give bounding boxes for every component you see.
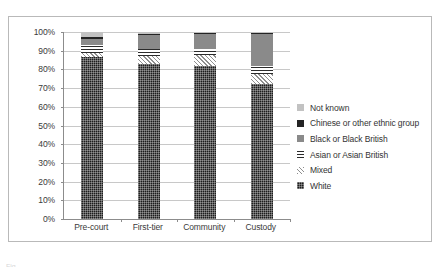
y-axis-tick-label: 70% xyxy=(21,83,55,93)
chart-legend: Not knownChinese or other ethnic groupBl… xyxy=(297,100,442,194)
legend-label: White xyxy=(310,181,331,191)
y-axis-tick-label: 30% xyxy=(21,158,55,168)
legend-swatch-icon xyxy=(297,120,304,127)
legend-item: Not known xyxy=(297,100,442,116)
bar-segment xyxy=(138,49,160,56)
legend-swatch-icon xyxy=(297,167,304,174)
bar-segment xyxy=(81,45,103,52)
y-axis-tick-label: 60% xyxy=(21,102,55,112)
bar-segment xyxy=(138,56,160,63)
y-axis-tick-mark xyxy=(61,32,64,33)
y-axis-tick-label: 100% xyxy=(21,27,55,37)
x-axis-labels: Pre-courtFirst-tierCommunityCustody xyxy=(63,222,289,238)
legend-item: Black or Black British xyxy=(297,131,442,147)
y-axis-tick-label: 90% xyxy=(21,46,55,56)
caption-sliver: Fig xyxy=(6,262,16,267)
bar-custody xyxy=(251,32,273,219)
y-axis-tick-mark xyxy=(61,107,64,108)
bar-segment xyxy=(194,66,216,219)
bar-segment xyxy=(194,34,216,49)
legend-item: White xyxy=(297,178,442,194)
chart-plot-wrapper: 100%90%80%70%60%50%40%30%20%10%0% Pre-co… xyxy=(9,17,431,241)
y-axis-tick-label: 40% xyxy=(21,139,55,149)
bar-segment xyxy=(251,84,273,219)
bar-segment xyxy=(138,35,160,49)
y-axis-tick-label: 80% xyxy=(21,64,55,74)
x-axis-tick-label: Community xyxy=(183,222,225,232)
y-axis-tick-mark xyxy=(61,219,64,220)
legend-label: Mixed xyxy=(310,165,332,175)
bar-segment xyxy=(138,64,160,219)
y-axis-labels: 100%90%80%70%60%50%40%30%20%10%0% xyxy=(19,32,55,219)
chart-frame: 100%90%80%70%60%50%40%30%20%10%0% Pre-co… xyxy=(8,16,432,242)
bar-community xyxy=(194,32,216,219)
y-axis-tick-mark xyxy=(61,144,64,145)
y-axis-tick-mark xyxy=(61,88,64,89)
y-axis-tick-mark xyxy=(61,69,64,70)
bar-segment xyxy=(81,57,103,219)
y-axis-tick-mark xyxy=(61,163,64,164)
y-axis-tick-mark xyxy=(61,51,64,52)
y-axis-tick-mark xyxy=(61,200,64,201)
bar-pre-court xyxy=(81,32,103,219)
y-axis-tick-label: 0% xyxy=(21,214,55,224)
legend-swatch-icon xyxy=(297,151,304,158)
bar-segment xyxy=(251,66,273,74)
legend-item: Mixed xyxy=(297,162,442,178)
legend-swatch-icon xyxy=(297,135,304,142)
y-axis-tick-label: 20% xyxy=(21,177,55,187)
y-axis-tick-mark xyxy=(61,182,64,183)
x-axis-tick-label: First-tier xyxy=(133,222,163,232)
legend-swatch-icon xyxy=(297,182,304,189)
legend-label: Not known xyxy=(310,103,349,113)
x-axis-tick-mark xyxy=(290,219,291,222)
legend-label: Chinese or other ethnic group xyxy=(310,118,419,128)
x-axis-tick-label: Pre-court xyxy=(74,222,108,232)
legend-swatch-icon xyxy=(297,104,304,111)
bar-first-tier xyxy=(138,32,160,219)
bar-segment xyxy=(251,74,273,84)
legend-label: Black or Black British xyxy=(310,134,388,144)
y-axis-tick-label: 10% xyxy=(21,195,55,205)
plot-area xyxy=(63,32,290,220)
y-axis-tick-mark xyxy=(61,126,64,127)
bar-segment xyxy=(194,55,216,65)
y-axis-tick-label: 50% xyxy=(21,121,55,131)
bar-segment xyxy=(251,34,273,66)
legend-label: Asian or Asian British xyxy=(310,150,388,160)
x-axis-tick-label: Custody xyxy=(246,222,276,232)
legend-item: Asian or Asian British xyxy=(297,147,442,163)
legend-item: Chinese or other ethnic group xyxy=(297,116,442,132)
